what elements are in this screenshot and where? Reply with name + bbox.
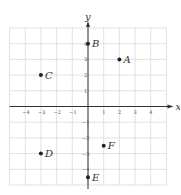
y-tick-label: 3 — [84, 56, 87, 62]
coordinate-plane: xy −4−3−2−112344321−1−2−3−4 ABCDEF — [0, 0, 180, 195]
point-label: D — [44, 148, 53, 159]
y-tick-label: 2 — [84, 72, 87, 78]
point-label: F — [107, 140, 116, 151]
y-tick-label: −4 — [82, 166, 89, 172]
y-tick-label: −3 — [82, 151, 89, 157]
x-tick-label: 4 — [149, 109, 152, 115]
point-label: B — [91, 38, 99, 49]
point-label: A — [122, 54, 130, 65]
x-tick-label: 1 — [102, 109, 105, 115]
x-tick-label: −2 — [54, 109, 61, 115]
point-marker-icon — [86, 175, 90, 179]
point-label: E — [91, 172, 100, 183]
x-tick-label: 2 — [118, 109, 121, 115]
x-tick-label: −3 — [38, 109, 45, 115]
x-axis-label: x — [176, 101, 181, 112]
y-axis-label: y — [84, 11, 91, 22]
point-marker-icon — [102, 144, 106, 148]
y-tick-label: 1 — [84, 88, 87, 94]
point-marker-icon — [39, 152, 43, 156]
point-label: C — [45, 70, 53, 81]
point-marker-icon — [117, 57, 121, 61]
x-tick-label: −4 — [22, 109, 29, 115]
x-tick-label: 3 — [134, 109, 137, 115]
point-marker-icon — [86, 42, 90, 46]
x-tick-label: −1 — [69, 109, 76, 115]
x-axis-arrow-icon — [168, 105, 174, 109]
y-tick-label: −1 — [82, 119, 89, 125]
point-marker-icon — [39, 73, 43, 77]
y-tick-label: −2 — [82, 135, 89, 141]
